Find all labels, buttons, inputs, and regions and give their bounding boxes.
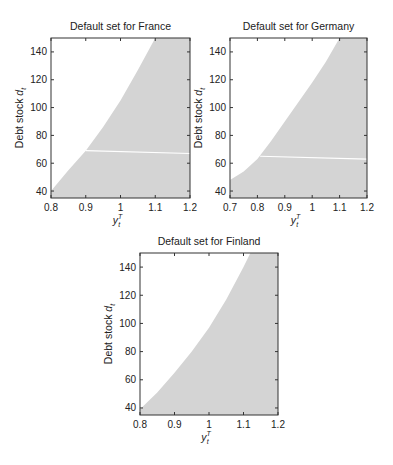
y-tick-label: 60 — [36, 158, 48, 169]
y-tick-label: 100 — [209, 102, 226, 113]
x-axis-label: yTt — [200, 430, 211, 445]
y-tick-label: 80 — [215, 130, 227, 141]
y-tick-label: 80 — [125, 346, 137, 357]
default-region — [138, 251, 280, 417]
y-tick-label: 80 — [36, 130, 48, 141]
y-tick-label: 40 — [125, 402, 137, 413]
y-tick-label: 100 — [30, 102, 47, 113]
x-tick-label: 0.8 — [133, 419, 147, 430]
x-tick-label: 1.1 — [237, 419, 251, 430]
chart-panel-germany: 0.70.80.911.11.2406080100120140Default s… — [196, 0, 393, 230]
y-axis-label: Debt stock dt — [192, 87, 206, 148]
x-axis-label: yTt — [290, 213, 301, 228]
x-tick-label: 0.9 — [79, 202, 93, 213]
chart-panel-finland: 0.80.911.11.2406080100120140Default set … — [90, 228, 300, 465]
y-tick-label: 140 — [119, 262, 136, 273]
y-tick-label: 120 — [209, 74, 226, 85]
y-axis-label: Debt stock dt — [102, 303, 116, 364]
y-tick-label: 140 — [30, 46, 47, 57]
x-tick-label: 1 — [309, 202, 315, 213]
y-tick-label: 120 — [119, 290, 136, 301]
x-tick-label: 1.2 — [360, 202, 374, 213]
x-tick-label: 0.8 — [250, 202, 264, 213]
y-tick-label: 120 — [30, 74, 47, 85]
x-tick-label: 0.7 — [223, 202, 237, 213]
x-tick-label: 0.9 — [278, 202, 292, 213]
chart-title: Default set for France — [70, 20, 171, 32]
y-tick-label: 140 — [209, 46, 226, 57]
x-tick-label: 1.1 — [333, 202, 347, 213]
y-tick-label: 100 — [119, 318, 136, 329]
chart-title: Default set for Finland — [158, 235, 261, 247]
chart-finland: 0.80.911.11.2406080100120140Default set … — [90, 228, 300, 465]
x-tick-label: 1 — [206, 419, 212, 430]
y-tick-label: 60 — [125, 374, 137, 385]
y-tick-label: 60 — [215, 158, 227, 169]
chart-germany: 0.70.80.911.11.2406080100120140Default s… — [196, 0, 393, 230]
x-tick-label: 0.8 — [44, 202, 58, 213]
y-axis-label: Debt stock dt — [13, 87, 27, 148]
chart-france: 0.80.911.11.2406080100120140Default set … — [0, 0, 196, 230]
x-tick-label: 1 — [118, 202, 124, 213]
x-axis-label: yTt — [112, 213, 123, 228]
chart-panel-france: 0.80.911.11.2406080100120140Default set … — [0, 0, 196, 230]
x-tick-label: 1.1 — [148, 202, 162, 213]
y-tick-label: 40 — [36, 186, 48, 197]
y-tick-label: 40 — [215, 186, 227, 197]
default-region — [49, 36, 192, 200]
default-region — [228, 36, 369, 200]
x-tick-label: 0.9 — [168, 419, 182, 430]
x-tick-label: 1.2 — [271, 419, 285, 430]
chart-title: Default set for Germany — [243, 20, 355, 32]
